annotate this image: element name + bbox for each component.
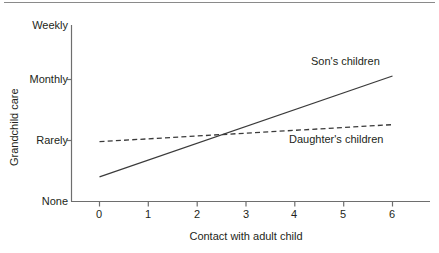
chart-figure: Weekly Monthly Rarely None 0 1 2 3 4 5 6… xyxy=(0,0,439,253)
plot-area xyxy=(0,0,439,253)
series-line-daughters-children xyxy=(100,125,393,142)
series-line-sons-children xyxy=(100,76,393,177)
